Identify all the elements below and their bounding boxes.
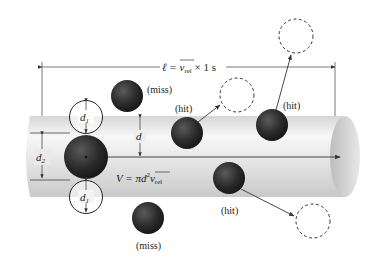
- label-hit-2: (hit): [283, 100, 300, 112]
- label-hit-1: (hit): [175, 103, 192, 115]
- deflected-position-3: [296, 204, 330, 238]
- collision-cylinder-diagram: ℓ = vrel × 1 s d2 d1 d1 d: [0, 0, 375, 266]
- length-formula: ℓ = vrel × 1 s: [162, 61, 216, 75]
- deflected-position-1: [220, 78, 254, 112]
- label-miss-bottom: (miss): [136, 240, 161, 252]
- d1-bottom-circle: d1: [70, 181, 103, 214]
- d1-top-circle: d1: [70, 101, 103, 134]
- molecule-miss-top: [111, 80, 143, 112]
- molecule-miss-bottom: [132, 202, 164, 234]
- cylinder-end: [330, 116, 360, 197]
- molecule-hit-3: [213, 162, 245, 194]
- deflected-position-2: [279, 19, 313, 53]
- molecule-hit-2: [256, 109, 288, 141]
- label-miss-top: (miss): [147, 84, 172, 96]
- label-hit-3: (hit): [221, 205, 238, 217]
- svg-text:d: d: [136, 130, 142, 142]
